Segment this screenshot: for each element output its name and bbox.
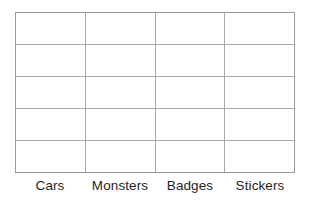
grid-cell[interactable]	[86, 109, 156, 140]
category-label-stickers: Stickers	[225, 176, 295, 198]
grid-cell[interactable]	[156, 141, 226, 172]
grid-row	[16, 13, 294, 45]
grid-cell[interactable]	[156, 45, 226, 76]
chart-figure: Cars Monsters Badges Stickers	[0, 0, 309, 202]
grid-cell[interactable]	[225, 13, 294, 44]
grid-cell[interactable]	[86, 13, 156, 44]
grid-cell[interactable]	[86, 141, 156, 172]
chart-grid	[15, 12, 295, 173]
grid-cell[interactable]	[156, 109, 226, 140]
grid-cell[interactable]	[225, 141, 294, 172]
grid-row	[16, 141, 294, 172]
grid-row	[16, 109, 294, 141]
grid-cell[interactable]	[86, 45, 156, 76]
grid-cell[interactable]	[16, 13, 86, 44]
grid-cell[interactable]	[156, 13, 226, 44]
grid-cell[interactable]	[86, 77, 156, 108]
category-axis: Cars Monsters Badges Stickers	[15, 176, 295, 198]
grid-row	[16, 77, 294, 109]
category-label-cars: Cars	[15, 176, 85, 198]
grid-cell[interactable]	[225, 45, 294, 76]
grid-cell[interactable]	[225, 109, 294, 140]
category-label-monsters: Monsters	[85, 176, 155, 198]
grid-cell[interactable]	[225, 77, 294, 108]
grid-cell[interactable]	[16, 109, 86, 140]
grid-cell[interactable]	[16, 77, 86, 108]
grid-cell[interactable]	[156, 77, 226, 108]
category-label-badges: Badges	[155, 176, 225, 198]
grid-cell[interactable]	[16, 141, 86, 172]
grid-cell[interactable]	[16, 45, 86, 76]
grid-row	[16, 45, 294, 77]
